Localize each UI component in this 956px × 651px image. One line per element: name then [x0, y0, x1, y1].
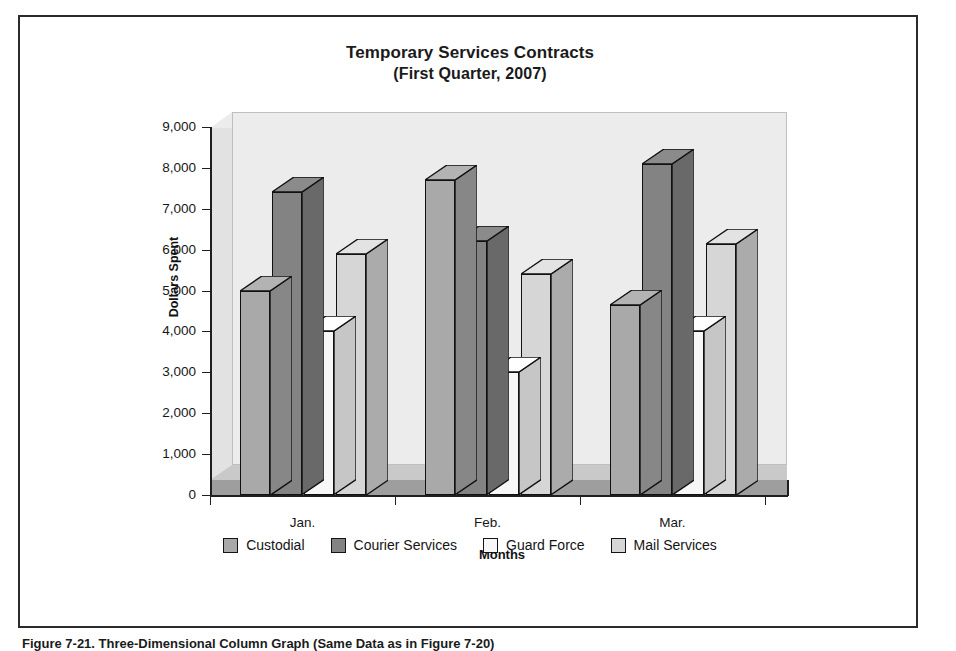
x-axis-line — [210, 495, 788, 497]
legend-label: Mail Services — [634, 537, 717, 553]
x-tick — [395, 495, 396, 505]
x-tick — [580, 495, 581, 505]
bar-front-face — [610, 305, 640, 495]
x-category-label: Jan. — [263, 515, 343, 530]
y-tick — [202, 454, 211, 455]
y-tick — [202, 413, 211, 414]
y-axis-title: Dollars Spent — [167, 237, 181, 318]
bar-side-outline — [455, 165, 477, 495]
bar-side-outline — [302, 177, 324, 495]
bar-custodial-mar — [610, 290, 640, 495]
y-tick-label: 3,000 — [126, 365, 196, 379]
y-tick-label: 2,000 — [126, 406, 196, 420]
plot-side-wall — [210, 127, 232, 480]
x-axis-depth-line — [787, 480, 789, 496]
plot-wall-corner — [210, 112, 232, 128]
chart-title: Temporary Services Contracts — [20, 43, 920, 63]
y-tick — [202, 372, 211, 373]
plot-floor-corner-right — [765, 480, 787, 496]
figure-frame: Temporary Services Contracts (First Quar… — [18, 15, 918, 628]
y-tick — [202, 331, 211, 332]
y-tick — [202, 168, 211, 169]
legend-item-custodial[interactable]: Custodial — [223, 537, 304, 553]
legend-label: Guard Force — [506, 537, 585, 553]
legend-swatch-icon — [611, 538, 626, 553]
bar-side-outline — [334, 316, 356, 495]
bar-side-outline — [519, 357, 541, 495]
x-tick — [765, 495, 766, 505]
bar-side-outline — [736, 229, 758, 495]
y-tick — [202, 127, 211, 128]
y-tick-label: 8,000 — [126, 161, 196, 175]
bar-side-outline — [704, 316, 726, 495]
legend-item-courier-services[interactable]: Courier Services — [331, 537, 457, 553]
y-tick — [202, 250, 211, 251]
bar-side-outline — [551, 259, 573, 495]
y-tick-label: 4,000 — [126, 324, 196, 338]
chart-subtitle: (First Quarter, 2007) — [20, 65, 920, 83]
bar-side-outline — [487, 226, 509, 495]
legend-item-mail-services[interactable]: Mail Services — [611, 537, 717, 553]
legend-swatch-icon — [331, 538, 346, 553]
legend-label: Courier Services — [354, 537, 457, 553]
x-category-label: Feb. — [448, 515, 528, 530]
y-tick-label: 1,000 — [126, 447, 196, 461]
y-axis-line — [210, 127, 212, 496]
y-tick — [202, 209, 211, 210]
bar-side-outline — [640, 290, 662, 495]
y-tick-label: 0 — [126, 488, 196, 502]
plot-area: 9,0008,0007,0006,0005,0004,0003,0002,000… — [192, 95, 812, 515]
legend-swatch-icon — [223, 538, 238, 553]
bar-custodial-feb — [425, 165, 455, 495]
legend-item-guard-force[interactable]: Guard Force — [483, 537, 585, 553]
y-tick-label: 6,000 — [126, 243, 196, 257]
chart-legend: CustodialCourier ServicesGuard ForceMail… — [20, 537, 920, 553]
legend-label: Custodial — [246, 537, 304, 553]
bar-side-outline — [672, 149, 694, 495]
figure-root: Temporary Services Contracts (First Quar… — [0, 0, 956, 651]
plot-floor-corner-left — [210, 465, 232, 480]
bar-side-outline — [270, 276, 292, 495]
y-tick — [202, 291, 211, 292]
bar-front-face — [240, 291, 270, 495]
y-tick-label: 9,000 — [126, 120, 196, 134]
bar-custodial-jan — [240, 276, 270, 495]
x-category-label: Mar. — [633, 515, 713, 530]
bar-front-face — [425, 180, 455, 495]
legend-swatch-icon — [483, 538, 498, 553]
bar-side-outline — [366, 239, 388, 495]
x-tick — [210, 495, 211, 505]
figure-caption: Figure 7-21. Three-Dimensional Column Gr… — [22, 636, 932, 651]
y-tick-label: 5,000 — [126, 284, 196, 298]
y-tick-label: 7,000 — [126, 202, 196, 216]
